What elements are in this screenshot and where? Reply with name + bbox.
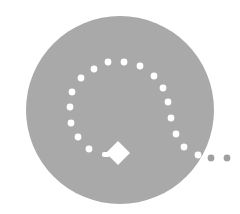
- route-path-illustration: [0, 0, 240, 214]
- path-dot: [168, 115, 175, 122]
- path-dot: [151, 73, 158, 80]
- path-dot: [165, 99, 172, 106]
- path-dot: [75, 134, 82, 141]
- dotted-path-outside: [208, 155, 231, 162]
- marker-tail: [102, 152, 110, 157]
- path-dot: [91, 66, 98, 73]
- path-dot: [121, 59, 128, 66]
- path-dot: [173, 131, 180, 138]
- gray-circle-background: [26, 16, 214, 204]
- path-dot: [69, 89, 76, 96]
- path-dot: [195, 152, 202, 159]
- path-dot: [67, 104, 74, 111]
- path-dot: [78, 75, 85, 82]
- path-dot: [224, 155, 231, 162]
- path-dot: [181, 144, 188, 151]
- path-dot: [137, 63, 144, 70]
- path-dot: [86, 146, 93, 153]
- route-graphic: [0, 0, 240, 214]
- path-dot: [160, 85, 167, 92]
- path-dot: [105, 59, 112, 66]
- path-dot: [208, 155, 215, 162]
- path-dot: [68, 120, 75, 127]
